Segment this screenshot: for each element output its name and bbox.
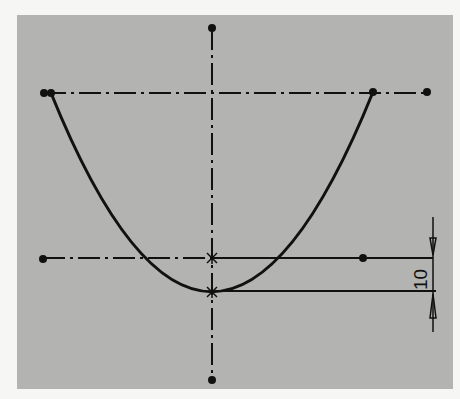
parabola-endpoint-left[interactable] <box>47 89 55 97</box>
reference-line[interactable] <box>39 254 433 263</box>
parabola-sketch[interactable]: 10 <box>0 0 460 399</box>
vertical-centerline[interactable] <box>208 24 216 384</box>
dimension-value[interactable]: 10 <box>410 269 431 290</box>
reference-line-point[interactable] <box>359 254 367 262</box>
centerline-endpoint-top[interactable] <box>208 24 216 32</box>
top-line-endpoint-right[interactable] <box>423 88 431 96</box>
top-line-endpoint-left[interactable] <box>40 89 48 97</box>
centerline-endpoint-bottom[interactable] <box>208 376 216 384</box>
dimension-10[interactable]: 10 <box>410 217 436 332</box>
reference-line-endpoint[interactable] <box>39 255 47 263</box>
parabola-endpoint-right[interactable] <box>369 88 377 96</box>
